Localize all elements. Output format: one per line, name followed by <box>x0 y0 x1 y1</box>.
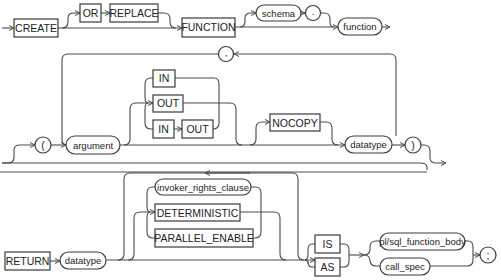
comma-label: , <box>225 47 228 58</box>
is-keyword: IS <box>315 235 340 253</box>
in-out-in-keyword: IN <box>153 120 174 138</box>
in2-label: IN <box>158 123 169 135</box>
nocopy-keyword: NOCOPY <box>270 114 320 131</box>
out-label: OUT <box>157 97 180 109</box>
nocopy-label: NOCOPY <box>272 117 318 129</box>
out-keyword: OUT <box>153 95 183 112</box>
row-create-function: CREATE OR REPLACE FUNCTION schema . <box>2 4 390 37</box>
schema-nonterminal: schema <box>256 5 301 21</box>
create-keyword: CREATE <box>14 19 58 37</box>
function-name-nonterminal: function <box>338 18 382 35</box>
function-name-label: function <box>343 21 376 32</box>
nocopy-branch <box>250 122 270 145</box>
schema-label: schema <box>262 8 296 19</box>
dot-label: . <box>312 6 315 17</box>
out2-label: OUT <box>186 123 209 135</box>
as-label: AS <box>320 261 334 273</box>
plsql-function-body-nonterminal: pl/sql_function_body <box>379 233 466 250</box>
bypass-line <box>2 163 427 170</box>
as-keyword: AS <box>315 258 340 276</box>
open-paren-label: ( <box>41 139 45 151</box>
semicolon-terminal: ; <box>480 247 496 263</box>
or-label: OR <box>83 7 99 19</box>
argument-nonterminal: argument <box>66 136 120 154</box>
datatype-nonterminal: datatype <box>345 136 392 153</box>
call-spec-label: call_spec <box>385 261 425 272</box>
parallel-enable-keyword: PARALLEL_ENABLE <box>154 229 254 247</box>
syntax-diagram: CREATE OR REPLACE FUNCTION schema . <box>0 0 501 280</box>
deterministic-label: DETERMINISTIC <box>157 207 239 219</box>
datatype-label: datatype <box>350 139 386 150</box>
create-label: CREATE <box>15 22 57 34</box>
in-out-out-keyword: OUT <box>182 120 213 138</box>
row-return: RETURN datatype invoker_rights_clause DE… <box>5 173 496 276</box>
return-datatype-label: datatype <box>65 255 101 266</box>
in-keyword: IN <box>153 70 175 87</box>
options-branch <box>128 212 155 260</box>
open-paren-terminal: ( <box>35 137 51 153</box>
close-paren-terminal: ) <box>405 137 421 153</box>
argument-label: argument <box>73 140 113 151</box>
inout-branch <box>124 103 153 145</box>
replace-keyword: REPLACE <box>109 4 158 22</box>
dot-terminal: . <box>306 6 321 21</box>
schema-branch <box>240 13 256 27</box>
plsql-function-body-label: pl/sql_function_body <box>379 236 466 247</box>
invoker-rights-clause-label: invoker_rights_clause <box>157 182 249 193</box>
replace-label: REPLACE <box>109 7 158 19</box>
invoker-rights-clause-nonterminal: invoker_rights_clause <box>155 179 251 195</box>
is-label: IS <box>323 238 333 250</box>
or-branch <box>62 13 80 28</box>
deterministic-keyword: DETERMINISTIC <box>155 204 240 221</box>
paren-branch <box>2 145 35 163</box>
comma-terminal: , <box>219 47 234 62</box>
or-keyword: OR <box>80 4 101 22</box>
close-paren-label: ) <box>411 139 415 151</box>
function-keyword-label: FUNCTION <box>181 21 235 33</box>
row2-exit-arrow <box>421 145 446 163</box>
semicolon-label: ; <box>487 249 490 261</box>
return-label: RETURN <box>6 255 50 267</box>
function-keyword: FUNCTION <box>181 18 235 37</box>
return-keyword: RETURN <box>5 252 50 270</box>
return-datatype-nonterminal: datatype <box>60 252 106 269</box>
parallel-enable-label: PARALLEL_ENABLE <box>154 232 254 244</box>
row-arguments: ( , argument IN OUT IN <box>0 47 446 173</box>
call-spec-nonterminal: call_spec <box>380 258 430 275</box>
in-label: IN <box>159 72 170 84</box>
